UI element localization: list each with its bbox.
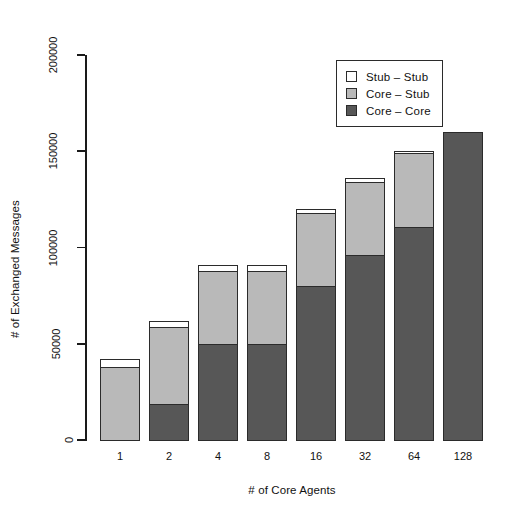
bar-segment-core-stub[interactable] [247,271,287,345]
bar-segment-stub-stub[interactable] [247,265,287,272]
y-axis-tick-label-text: 100000 [48,229,60,266]
bar-segment-stub-stub[interactable] [149,321,189,328]
bar-segment-core-stub[interactable] [296,213,336,287]
bar-group[interactable] [149,55,189,440]
bar-group[interactable] [443,55,483,440]
bar-segment-stub-stub[interactable] [345,178,385,183]
bar-segment-core-stub[interactable] [345,182,385,256]
bar-segment-stub-stub[interactable] [394,151,434,154]
x-axis-title: # of Core Agents [0,484,528,496]
legend-swatch-icon [346,88,357,99]
x-axis-tick-label: 128 [433,450,493,462]
legend-item-label: Core – Core [366,105,431,117]
y-axis-tick-label-text: 200000 [48,37,60,74]
y-axis-tick-label: 200000 [0,49,72,61]
y-axis-tick [77,150,85,152]
legend-item-label: Core – Stub [366,88,430,100]
legend-item: Core – Stub [346,85,431,102]
legend-swatch-icon [346,71,357,82]
bar-segment-stub-stub[interactable] [100,359,140,368]
y-axis-tick-label-text: 150000 [48,133,60,170]
y-axis-title: # of Exchanged Messages [0,0,30,526]
y-axis-tick [77,54,85,56]
y-axis-tick-label: 150000 [0,145,72,157]
bar-group[interactable] [247,55,287,440]
y-axis-tick-label-text: 0 [63,437,75,443]
y-axis-tick [77,439,85,441]
bar-segment-core-stub[interactable] [100,367,140,441]
bar-segment-core-core[interactable] [296,286,336,441]
bar-segment-core-core[interactable] [345,255,385,441]
y-axis-tick [77,247,85,249]
bar-segment-core-core[interactable] [247,344,287,441]
bar-segment-core-stub[interactable] [149,326,189,404]
bar-segment-core-stub[interactable] [394,153,434,227]
bar-segment-core-core[interactable] [443,132,483,441]
bar-group[interactable] [296,55,336,440]
bar-segment-core-stub[interactable] [198,271,238,345]
bar-segment-stub-stub[interactable] [296,209,336,214]
legend-item: Core – Core [346,102,431,119]
y-axis-line [85,55,87,441]
bar-group[interactable] [198,55,238,440]
y-axis-tick-label: 50000 [0,338,72,350]
bar-group[interactable] [100,55,140,440]
legend-swatch-icon [346,105,357,116]
bar-segment-core-core[interactable] [394,226,434,441]
y-axis-tick-label-text: 50000 [51,328,63,359]
x-axis-title-text: # of Core Agents [248,484,335,496]
legend-item: Stub – Stub [346,68,431,85]
y-axis-tick-label: 0 [0,434,72,446]
bar-segment-core-core[interactable] [149,403,189,441]
bar-chart-figure: # of Exchanged Messages 0500001000001500… [0,0,528,526]
y-axis-tick [77,343,85,345]
legend-item-label: Stub – Stub [366,71,428,83]
bar-segment-stub-stub[interactable] [198,265,238,272]
y-axis-title-text: # of Exchanged Messages [9,200,21,338]
y-axis-tick-label: 100000 [0,242,72,254]
chart-legend: Stub – StubCore – StubCore – Core [336,60,443,127]
bar-segment-core-core[interactable] [198,344,238,441]
